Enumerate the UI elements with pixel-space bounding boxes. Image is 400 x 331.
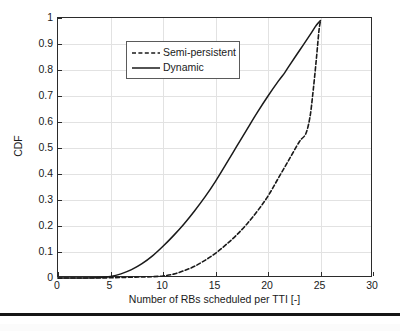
y-tick-label: 0: [47, 271, 53, 283]
y-axis-title: CDF: [12, 116, 24, 176]
legend-label-dynamic: Dynamic: [163, 62, 204, 73]
chart-legend[interactable]: Semi-persistent Dynamic: [126, 41, 240, 79]
x-axis-tick-labels: 051015202530: [57, 279, 372, 293]
y-tick-label: 0.2: [38, 219, 53, 231]
chart-figure: 00.10.20.30.40.50.60.70.80.91 CDF Semi-p…: [0, 0, 400, 331]
x-tick-label: 5: [107, 279, 113, 291]
x-tick-label: 20: [261, 279, 273, 291]
legend-label-semi-persistent: Semi-persistent: [163, 47, 236, 58]
y-tick-label: 0.5: [38, 141, 53, 153]
x-tick-label: 15: [209, 279, 221, 291]
legend-item-dynamic[interactable]: Dynamic: [131, 60, 235, 75]
y-tick-label: 0.6: [38, 115, 53, 127]
scan-artifact-smudge: [0, 324, 400, 331]
x-axis-tick: [373, 272, 374, 276]
plot-area: Semi-persistent Dynamic: [57, 17, 372, 277]
y-tick-label: 0.9: [38, 37, 53, 49]
x-tick-label: 10: [156, 279, 168, 291]
legend-item-semi-persistent[interactable]: Semi-persistent: [131, 45, 235, 60]
x-tick-label: 0: [54, 279, 60, 291]
solid-line-swatch-icon: [131, 63, 161, 73]
x-tick-label: 25: [314, 279, 326, 291]
y-tick-label: 0.7: [38, 89, 53, 101]
y-tick-label: 0.8: [38, 63, 53, 75]
x-axis-title: Number of RBs scheduled per TTI [-]: [57, 293, 372, 305]
y-tick-label: 0.4: [38, 167, 53, 179]
y-axis-tick-labels: 00.10.20.30.40.50.60.70.80.91: [0, 17, 53, 277]
x-tick-label: 30: [366, 279, 378, 291]
scan-artifact-rule: [0, 313, 400, 316]
y-tick-label: 1: [47, 11, 53, 23]
y-tick-label: 0.1: [38, 245, 53, 257]
y-tick-label: 0.3: [38, 193, 53, 205]
dashed-line-swatch-icon: [131, 48, 161, 58]
